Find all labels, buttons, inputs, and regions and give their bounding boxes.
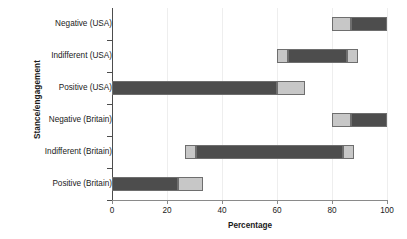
x-tick-mark <box>387 200 388 204</box>
x-tick-mark <box>167 200 168 204</box>
y-tick-mark <box>107 136 112 137</box>
bar-segment-light <box>277 81 305 95</box>
y-tick-label-positive-britain: Positive (Britain) <box>52 179 112 189</box>
bar-segment-light <box>332 17 351 31</box>
bar-positive-britain <box>112 177 387 191</box>
x-tick-mark <box>277 200 278 204</box>
y-tick-label-indifferent-usa: Indifferent (USA) <box>51 51 112 61</box>
bar-segment-light <box>178 177 203 191</box>
bar-negative-usa <box>112 17 387 31</box>
bar-segment-light <box>347 49 358 63</box>
x-tick-mark <box>222 200 223 204</box>
y-tick-mark <box>107 40 112 41</box>
bar-positive-usa <box>112 81 387 95</box>
x-tick-label: 100 <box>372 206 402 215</box>
bar-segment-dark <box>112 81 277 95</box>
bar-indifferent-britain <box>112 145 387 159</box>
y-tick-label-negative-usa: Negative (USA) <box>55 19 112 29</box>
x-tick-label: 20 <box>152 206 182 215</box>
x-tick-mark <box>112 200 113 204</box>
x-tick-label: 40 <box>207 206 237 215</box>
bar-segment-dark <box>351 17 387 31</box>
bar-segment-light <box>185 145 196 159</box>
bar-segment-light <box>277 49 288 63</box>
gridline <box>332 8 333 200</box>
y-tick-mark <box>107 200 112 201</box>
bar-segment-dark <box>288 49 347 63</box>
x-axis-title: Percentage <box>112 221 388 230</box>
y-tick-label-positive-usa: Positive (USA) <box>59 83 112 93</box>
x-tick-label: 60 <box>262 206 292 215</box>
bar-segment-dark <box>351 113 387 127</box>
bar-segment-light <box>343 145 354 159</box>
y-axis-title: Stance/engagement <box>33 30 42 170</box>
plot-area <box>112 8 387 200</box>
bar-segment-dark <box>112 177 178 191</box>
bar-segment-dark <box>196 145 343 159</box>
y-tick-mark <box>107 72 112 73</box>
x-tick-label: 80 <box>317 206 347 215</box>
x-tick-mark <box>332 200 333 204</box>
chart-container: Stance/engagement Percentage 02040608010… <box>0 0 407 239</box>
bar-indifferent-usa <box>112 49 387 63</box>
x-axis-line <box>112 200 388 201</box>
y-tick-mark <box>107 168 112 169</box>
bar-segment-light <box>332 113 351 127</box>
x-tick-label: 0 <box>97 206 127 215</box>
gridline <box>222 8 223 200</box>
bar-negative-britain <box>112 113 387 127</box>
gridline <box>277 8 278 200</box>
y-tick-label-indifferent-britain: Indifferent (Britain) <box>45 147 112 157</box>
y-tick-label-negative-britain: Negative (Britain) <box>49 115 112 125</box>
y-tick-mark <box>107 104 112 105</box>
gridline <box>387 8 388 200</box>
gridline <box>167 8 168 200</box>
y-axis-line <box>112 8 113 200</box>
